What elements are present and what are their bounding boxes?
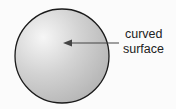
label-line-1: curved (125, 27, 163, 42)
diagram-canvas: curved surface (0, 0, 176, 109)
sphere (15, 9, 109, 103)
label-line-2: surface (123, 42, 164, 57)
